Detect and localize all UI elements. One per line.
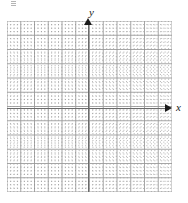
y-axis-line xyxy=(88,22,89,192)
y-axis-label: y xyxy=(89,7,94,18)
corner-artifact-mark xyxy=(11,1,16,7)
arrow-right-icon xyxy=(165,104,172,112)
arrow-up-icon xyxy=(84,18,92,25)
x-axis-label: x xyxy=(176,102,181,113)
coordinate-plane-figure: y x xyxy=(0,0,188,203)
grid-lines xyxy=(7,21,172,192)
grid-panel xyxy=(7,21,172,192)
